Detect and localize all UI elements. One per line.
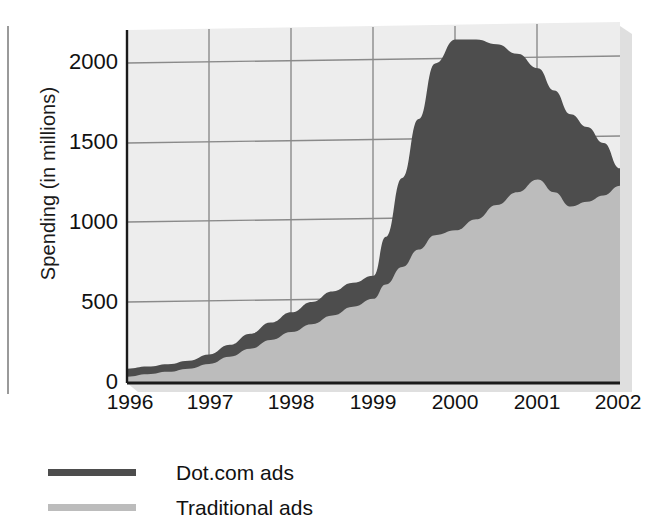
- x-tick-label-1998: 1998: [251, 391, 331, 412]
- x-tick-label-1999: 1999: [333, 391, 413, 412]
- legend-label-traditional-ads: Traditional ads: [176, 496, 313, 520]
- x-tick-label-2000: 2000: [415, 391, 495, 412]
- chart-legend: Dot.com ads Traditional ads: [48, 455, 468, 525]
- area-chart-figure: Spending (in millions) 2000 1500 1000 50…: [0, 0, 661, 529]
- legend-swatch-dotcom-ads: [48, 469, 136, 476]
- y-tick-label-1500: 1500: [40, 131, 118, 153]
- legend-label-dotcom-ads: Dot.com ads: [176, 461, 294, 485]
- x-tick-label-2001: 2001: [497, 391, 577, 412]
- chart-canvas: [0, 0, 661, 529]
- x-tick-label-1997: 1997: [170, 391, 250, 412]
- legend-item-traditional-ads: Traditional ads: [48, 490, 468, 525]
- y-tick-label-500: 500: [40, 291, 118, 313]
- y-tick-label-1000: 1000: [40, 211, 118, 233]
- y-tick-label-2000: 2000: [40, 51, 118, 73]
- y-axis-title: Spending (in millions): [37, 74, 60, 294]
- legend-swatch-traditional-ads: [48, 504, 136, 511]
- x-tick-label-1996: 1996: [90, 391, 170, 412]
- legend-item-dotcom-ads: Dot.com ads: [48, 455, 468, 490]
- x-tick-label-2002: 2002: [578, 391, 658, 412]
